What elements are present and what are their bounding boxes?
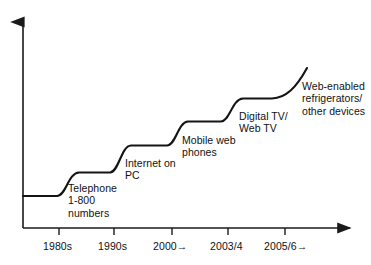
technology-evolution-step-chart: 1980s 1990s 2000→ 2003/4 2005/6→ Telepho…	[0, 0, 371, 265]
step-label-digital-tv-web-tv-line2: Web TV	[239, 122, 288, 134]
step-label-telephone-line1: Telephone	[68, 182, 117, 194]
x-axis-label-1980s: 1980s	[43, 240, 72, 252]
step-label-mobile-web-phones: Mobile web phones	[182, 134, 236, 159]
chart-canvas	[0, 0, 371, 265]
x-axis-label-2003-4: 2003/4	[210, 240, 243, 252]
step-label-telephone-line3: numbers	[68, 207, 117, 219]
step-label-web-enabled-devices-line1: Web-enabled	[302, 80, 365, 92]
x-axis-label-2000: 2000→	[153, 240, 187, 252]
x-axis-label-2005-6: 2005/6→	[264, 240, 307, 252]
step-label-web-enabled-devices-line3: other devices	[302, 105, 365, 117]
x-axis-label-1990s: 1990s	[98, 240, 127, 252]
step-label-internet-on-pc-line1: Internet on	[125, 157, 176, 169]
step-label-mobile-web-phones-line2: phones	[182, 146, 236, 158]
step-label-telephone: Telephone 1-800 numbers	[68, 182, 117, 219]
step-label-mobile-web-phones-line1: Mobile web	[182, 134, 236, 146]
step-label-digital-tv-web-tv: Digital TV/ Web TV	[239, 110, 288, 135]
step-label-telephone-line2: 1-800	[68, 194, 117, 206]
step-label-internet-on-pc-line2: PC	[125, 169, 176, 181]
step-label-web-enabled-devices-line2: refrigerators/	[302, 92, 365, 104]
step-label-web-enabled-devices: Web-enabled refrigerators/ other devices	[302, 80, 365, 117]
step-label-internet-on-pc: Internet on PC	[125, 157, 176, 182]
step-label-digital-tv-web-tv-line1: Digital TV/	[239, 110, 288, 122]
